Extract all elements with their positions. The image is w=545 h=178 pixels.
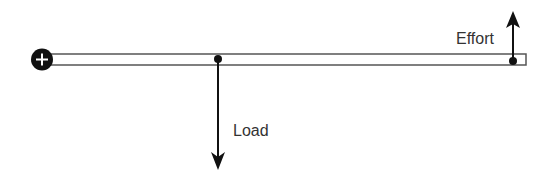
effort-label: Effort	[456, 30, 495, 47]
lever-diagram: Load Effort	[0, 0, 545, 178]
fulcrum-plus-icon	[31, 49, 53, 71]
load-arrow-icon	[211, 55, 225, 170]
lever-bar	[50, 54, 526, 65]
load-label: Load	[233, 122, 269, 139]
